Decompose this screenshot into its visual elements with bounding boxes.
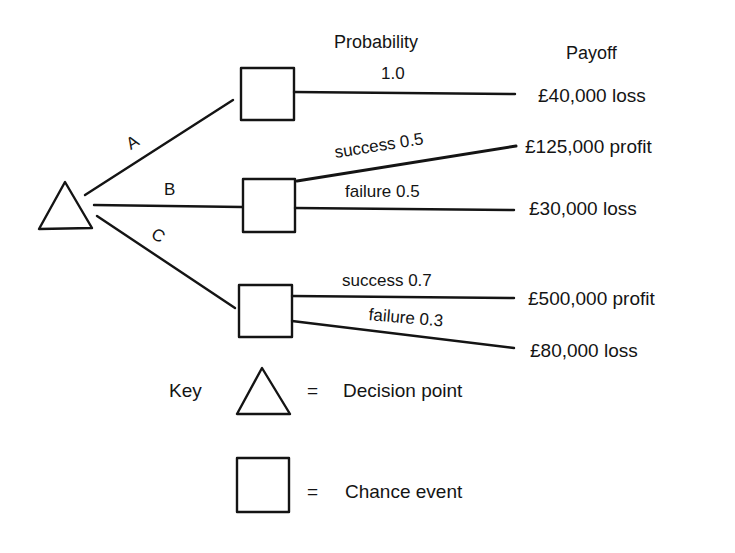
outcome-b-failure-label: failure 0.5: [345, 183, 420, 200]
outcome-b-failure-line: [295, 208, 514, 210]
branch-b-label: B: [164, 181, 175, 198]
probability-header: Probability: [334, 33, 418, 51]
key-square-icon: [237, 458, 289, 512]
chance-event-a-square-icon: [241, 68, 294, 120]
payoff-c-success: £500,000 profit: [528, 289, 655, 308]
key-decision-label: Decision point: [343, 381, 462, 400]
payoff-c-failure: £80,000 loss: [530, 341, 638, 360]
key-decision-equals: =: [307, 381, 318, 400]
outcome-a-probability: 1.0: [381, 65, 405, 82]
outcome-b-success-line: [297, 146, 516, 181]
outcome-c-success-line: [292, 296, 514, 298]
payoff-header: Payoff: [566, 44, 617, 62]
chance-event-c-square-icon: [239, 285, 292, 337]
key-chance-label: Chance event: [345, 482, 462, 501]
payoff-a: £40,000 loss: [538, 86, 646, 105]
payoff-b-failure: £30,000 loss: [529, 199, 637, 218]
branch-b-line: [94, 205, 242, 207]
decision-point-triangle-icon: [39, 182, 92, 229]
key-chance-equals: =: [307, 482, 318, 501]
key-triangle-icon: [237, 368, 290, 414]
payoff-b-success: £125,000 profit: [525, 137, 652, 156]
key-title: Key: [169, 381, 202, 400]
branch-a-line: [85, 100, 233, 195]
outcome-a-line: [294, 92, 515, 94]
chance-event-b-square-icon: [243, 179, 295, 232]
outcome-c-success-label: success 0.7: [342, 272, 432, 289]
